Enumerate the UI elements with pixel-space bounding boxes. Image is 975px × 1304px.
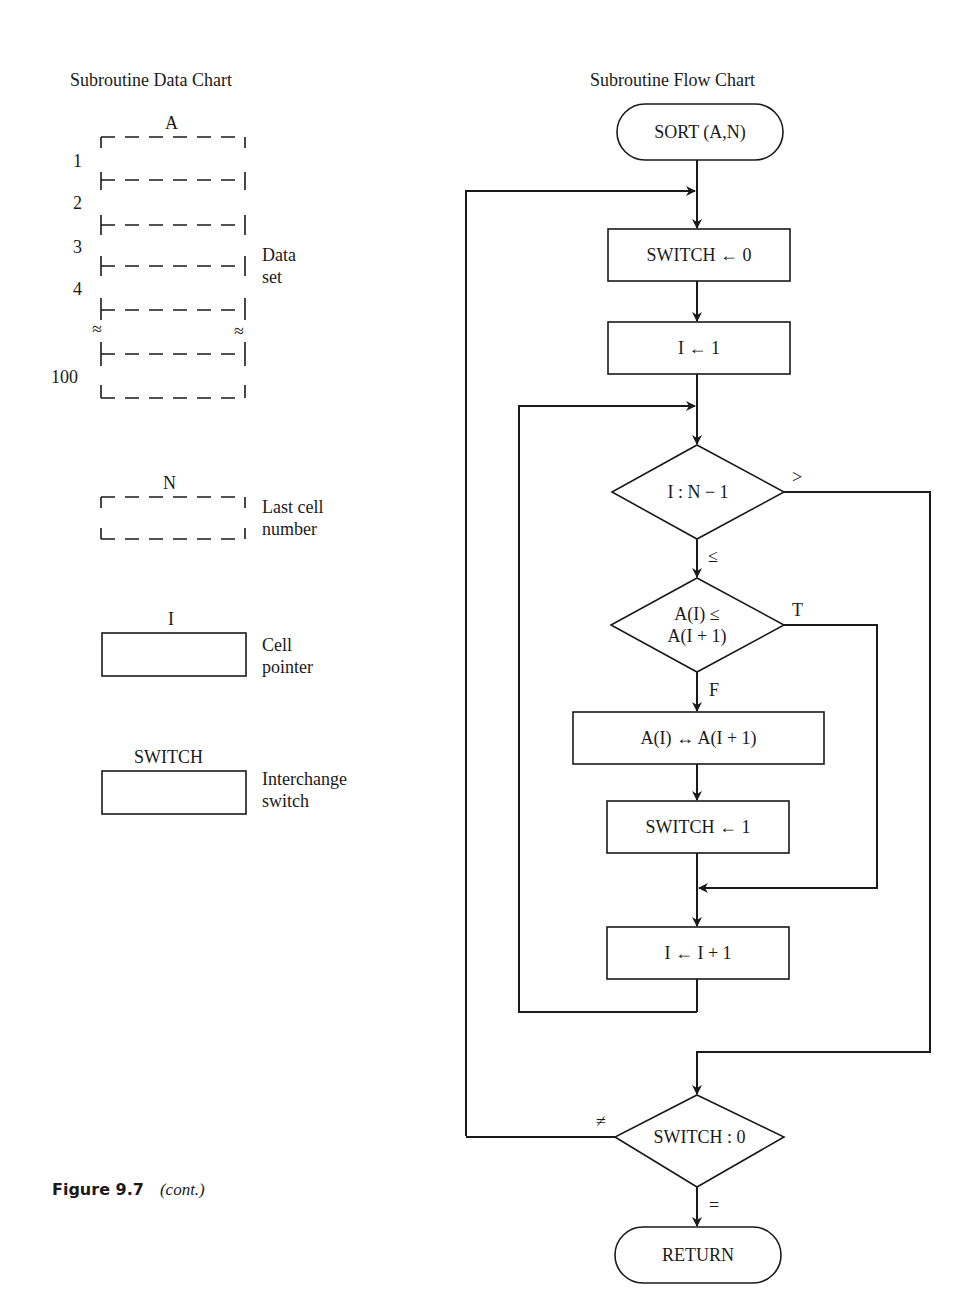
- compare-true-label: T: [792, 599, 803, 621]
- compare-decision-line1: A(I) ≤: [611, 603, 783, 625]
- bound-decision-label: I : N − 1: [612, 481, 784, 503]
- switch-eq-label: =: [709, 1194, 719, 1216]
- interchange-switch-box: [102, 771, 246, 814]
- compare-false-label: F: [709, 679, 719, 701]
- bound-le-label: ≤: [708, 545, 718, 567]
- start-label: SORT (A,N): [617, 121, 783, 143]
- last-cell-box: [101, 497, 245, 539]
- diagram-canvas: [0, 0, 975, 1304]
- compare-decision-label: A(I) ≤ A(I + 1): [611, 603, 783, 647]
- init-i-label: I ← 1: [608, 337, 790, 359]
- array-a-box: [101, 137, 245, 398]
- increment-label: I ← I + 1: [607, 942, 789, 964]
- return-label: RETURN: [615, 1244, 781, 1266]
- switch-decision-label: SWITCH : 0: [615, 1126, 784, 1148]
- compare-decision-line2: A(I + 1): [611, 625, 783, 647]
- init-switch-label: SWITCH ← 0: [608, 244, 790, 266]
- bound-gt-label: >: [792, 466, 802, 488]
- switch-ne-label: ≠: [596, 1110, 606, 1132]
- swap-label: A(I) ↔ A(I + 1): [573, 727, 824, 749]
- set-switch-label: SWITCH ← 1: [607, 816, 789, 838]
- cell-pointer-box: [102, 633, 246, 676]
